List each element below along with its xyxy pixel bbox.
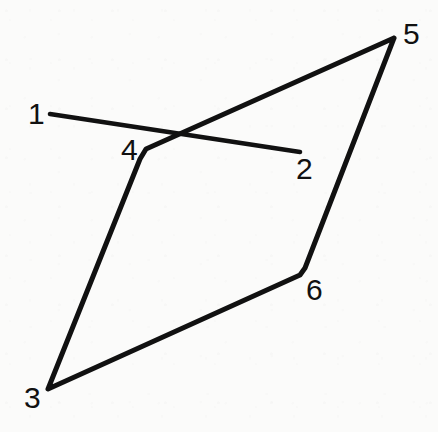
point-label-6: 6 bbox=[306, 275, 323, 305]
point-label-3: 3 bbox=[24, 383, 41, 413]
point-label-4: 4 bbox=[121, 135, 138, 165]
figure-canvas: 1 2 3 4 5 6 bbox=[0, 0, 438, 432]
line-drawing bbox=[0, 0, 438, 432]
point-label-2: 2 bbox=[296, 154, 313, 184]
point-label-1: 1 bbox=[28, 99, 45, 129]
point-label-5: 5 bbox=[403, 19, 420, 49]
segment-1-to-2 bbox=[50, 114, 300, 152]
polyline-5-4-3-6-5 bbox=[48, 38, 394, 389]
